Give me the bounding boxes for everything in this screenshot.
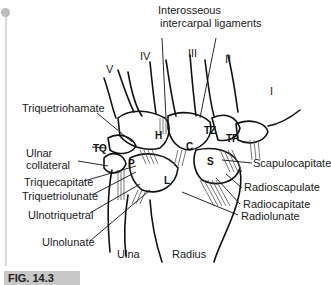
label-radiolunate: Radiolunate	[241, 210, 300, 222]
metacarpal-i: I	[270, 85, 273, 97]
bone-scaphoid: S	[207, 157, 214, 167]
figure-caption: FIG. 14.3	[4, 271, 80, 285]
label-collateral: collateral	[26, 159, 70, 171]
bone-triquetrum: TQ	[93, 144, 107, 154]
label-ulnotriquetral: Ulnotriquetral	[28, 209, 93, 221]
bone-pisiform: P	[128, 159, 135, 169]
bone-capitate: C	[186, 142, 193, 152]
label-interosseous: Interosseous	[158, 4, 221, 16]
bone-trapezoid: TZ	[204, 126, 216, 136]
bone-hamate: H	[155, 131, 162, 141]
metacarpal-iv: IV	[140, 50, 150, 62]
label-scapulocapitate: Scapulocapitate	[253, 157, 331, 169]
bone-trapezium: TP	[226, 134, 239, 144]
label-ulna: Ulna	[117, 248, 140, 260]
label-ulnolunate: Ulnolunate	[42, 236, 95, 248]
metacarpal-v: V	[106, 63, 113, 75]
metacarpal-iii: III	[188, 47, 197, 59]
label-radius: Radius	[172, 248, 206, 260]
bone-lunate: L	[164, 176, 170, 186]
label-intercarpal-ligaments: intercarpal ligaments	[160, 17, 262, 29]
label-triquetriolunate: Triquetriolunate	[22, 190, 98, 202]
label-ulnar: Ulnar	[26, 147, 52, 159]
label-radiocapitate: Radiocapitate	[243, 198, 310, 210]
metacarpal-ii: II	[225, 53, 231, 65]
label-triquecapitate: Triquecapitate	[24, 176, 93, 188]
label-triquetriohamate: Triquetriohamate	[22, 102, 105, 114]
label-radioscapulate: Radioscapulate	[244, 181, 320, 193]
